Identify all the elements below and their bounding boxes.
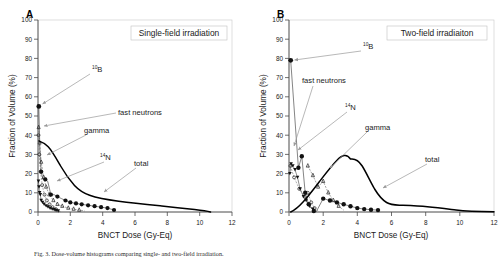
panel-a-y-ticks: [34, 20, 38, 212]
panel-a-x-ticks: [38, 212, 232, 216]
svg-text:10: 10: [456, 219, 464, 226]
svg-text:50: 50: [25, 112, 33, 119]
svg-text:100: 100: [21, 16, 32, 23]
panel-a-annot-fast-neutrons: fast neutrons: [118, 108, 162, 117]
panel-a-plot: 100 90 80 70 60 50 40 30 20 10 0: [0, 0, 251, 250]
figure-container: A: [0, 0, 502, 262]
svg-text:90: 90: [25, 36, 33, 43]
svg-text:30: 30: [25, 151, 33, 158]
panel-a-title-text: Single-field irradiation: [139, 28, 220, 38]
panel-a-annot-total: total: [134, 159, 149, 168]
svg-text:6: 6: [133, 219, 137, 226]
svg-text:60: 60: [25, 93, 33, 100]
svg-text:12: 12: [490, 219, 498, 226]
panel-a-x-ticklabels: 0 2 4 6 8 10 12: [36, 219, 236, 226]
panel-b-annot-gamma: gamma: [365, 123, 391, 132]
svg-text:0: 0: [28, 208, 32, 215]
panel-a-title-box: Single-field irradiation: [131, 26, 227, 40]
panel-b-y-ticklabels: 100 90 80 70 60 50 40 30 20 10 0: [272, 16, 283, 215]
svg-text:6: 6: [390, 219, 394, 226]
svg-text:20: 20: [25, 170, 33, 177]
svg-text:80: 80: [276, 55, 284, 62]
svg-text:2: 2: [69, 219, 73, 226]
panel-b-annot-fast-neutrons: fast neutrons: [302, 76, 346, 85]
svg-text:70: 70: [276, 74, 284, 81]
svg-text:30: 30: [276, 151, 284, 158]
panel-a-ylabel: Fraction of Volume (%): [8, 74, 17, 158]
panel-b-title-box: Two-field irradiaiton: [387, 26, 487, 40]
panel-a-annot-gamma: gamma: [84, 126, 110, 135]
svg-text:20: 20: [276, 170, 284, 177]
svg-text:0: 0: [36, 219, 40, 226]
svg-text:10: 10: [25, 189, 33, 196]
svg-text:10: 10: [196, 219, 204, 226]
svg-text:2: 2: [321, 219, 325, 226]
svg-text:60: 60: [276, 93, 284, 100]
svg-text:80: 80: [25, 55, 33, 62]
svg-text:70: 70: [25, 74, 33, 81]
panel-b-annot-total: total: [425, 155, 440, 164]
svg-text:8: 8: [424, 219, 428, 226]
svg-text:40: 40: [25, 132, 33, 139]
panel-b: B: [251, 0, 502, 262]
panel-b-x-ticks: [289, 212, 494, 216]
svg-text:50: 50: [276, 112, 284, 119]
svg-text:100: 100: [272, 16, 283, 23]
panel-b-x-ticklabels: 0 2 4 6 8 10 12: [287, 219, 498, 226]
svg-text:8: 8: [166, 219, 170, 226]
figure-caption: Fig. 3. Dose-volume histograms comparing…: [34, 250, 244, 261]
panel-b-y-ticks: [285, 20, 289, 212]
svg-text:40: 40: [276, 132, 284, 139]
svg-text:4: 4: [356, 219, 360, 226]
svg-text:0: 0: [279, 208, 283, 215]
panel-b-ylabel: Fraction of Volume (%): [259, 74, 268, 158]
svg-text:12: 12: [228, 219, 236, 226]
panel-a: A: [0, 0, 251, 262]
svg-text:10: 10: [276, 189, 284, 196]
panel-a-xlabel: BNCT Dose (Gy-Eq): [98, 231, 173, 240]
svg-text:4: 4: [101, 219, 105, 226]
panel-a-y-ticklabels: 100 90 80 70 60 50 40 30 20 10 0: [21, 16, 32, 215]
panel-b-title-text: Two-field irradiaiton: [401, 28, 474, 38]
svg-text:0: 0: [287, 219, 291, 226]
svg-text:90: 90: [276, 36, 284, 43]
panel-b-plot: 100 90 80 70 60 50 40 30 20 10 0: [251, 0, 502, 250]
panel-b-xlabel: BNCT Dose (Gy-Eq): [354, 231, 429, 240]
